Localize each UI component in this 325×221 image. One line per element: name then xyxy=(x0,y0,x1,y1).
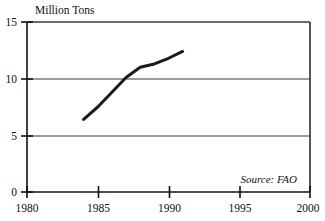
y-axis-unit-label: Million Tons xyxy=(35,4,95,16)
x-tick-label-1985: 1985 xyxy=(87,202,110,214)
y-tick-label-0: 0 xyxy=(11,186,17,198)
y-tick-label-5: 5 xyxy=(11,130,17,142)
x-tick-label-1980: 1980 xyxy=(16,202,39,214)
y-tick-label-15: 15 xyxy=(6,16,18,28)
source-annotation: Source: FAO xyxy=(240,173,297,185)
y-tick-label-10: 10 xyxy=(6,73,18,85)
chart-background xyxy=(0,0,325,221)
x-tick-label-2000: 2000 xyxy=(297,202,320,214)
line-chart: Million Tons 15 10 5 0 xyxy=(0,0,325,221)
chart-container: Million Tons 15 10 5 0 xyxy=(0,0,325,221)
x-tick-label-1995: 1995 xyxy=(229,202,252,214)
x-tick-label-1990: 1990 xyxy=(158,202,181,214)
